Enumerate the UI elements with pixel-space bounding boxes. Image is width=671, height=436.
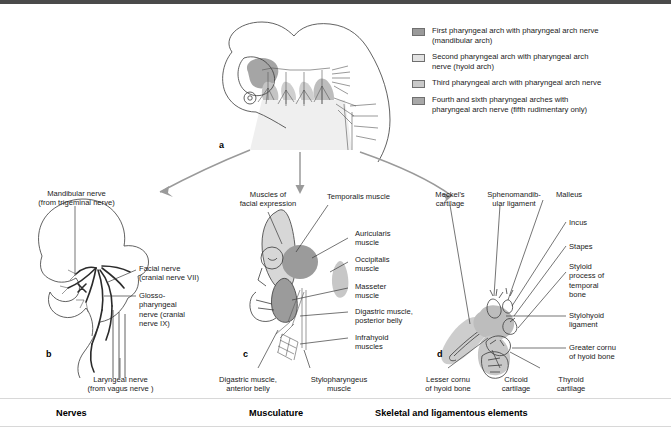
infrahyoid-muscles-label: Infrahyoid muscles xyxy=(355,333,415,352)
auricularis-muscle-label: Auricularis muscle xyxy=(355,229,415,248)
legend: First pharyngeal arch with pharyngeal ar… xyxy=(412,26,668,122)
figure-root: First pharyngeal arch with pharyngeal ar… xyxy=(0,0,671,436)
styloid-process-label: Styloid process of temporal bone xyxy=(569,262,621,300)
panel-a-embryo xyxy=(223,22,390,162)
category-title-nerves: Nerves xyxy=(56,408,87,418)
muscles-facial-expression-label: Muscles of facial expression xyxy=(225,190,311,209)
temporalis-muscle-label: Temporalis muscle xyxy=(327,192,417,201)
digastric-anterior-belly-label: Digastric muscle, anterior belly xyxy=(204,375,292,394)
stylopharyngeus-muscle-label: Stylopharyngeus muscle xyxy=(297,375,381,394)
meckels-cartilage-label: Meckel's cartilage xyxy=(424,190,476,209)
panel-c-musculature xyxy=(250,205,348,368)
category-title-skeletal: Skeletal and ligamentous elements xyxy=(375,408,528,418)
occipitalis-muscle-label: Occipitalis muscle xyxy=(355,255,415,274)
category-divider-rule xyxy=(0,398,671,399)
thyroid-cartilage-label: Thyroid cartilage xyxy=(545,375,597,394)
digastric-posterior-belly-label: Digastric muscle, posterior belly xyxy=(355,307,440,326)
cricoid-cartilage-label: Cricoid cartilage xyxy=(490,375,542,394)
bottom-rule xyxy=(0,426,671,427)
legend-item-label: First pharyngeal arch with pharyngeal ar… xyxy=(432,26,599,45)
panel-letter-c: c xyxy=(243,349,248,359)
legend-item-label: Third pharyngeal arch with pharyngeal ar… xyxy=(432,78,601,88)
panel-b-nerves xyxy=(39,199,149,378)
mandibular-nerve-label: Mandibular nerve (from trigeminal nerve) xyxy=(14,189,139,208)
category-title-musculature: Musculature xyxy=(249,408,303,418)
glossopharyngeal-nerve-label: Glosso- pharyngeal nerve (cranial nerve … xyxy=(139,291,197,329)
panel-d-skeletal xyxy=(441,200,566,378)
legend-item-fourth-sixth-arch: Fourth and sixth pharyngeal arches with … xyxy=(412,95,668,114)
legend-item-label: Second pharyngeal arch with pharyngeal a… xyxy=(432,52,588,71)
stylohyoid-ligament-label: Stylohyoid ligament xyxy=(569,311,629,330)
top-rule xyxy=(0,0,671,4)
panel-letter-b: b xyxy=(46,349,52,359)
third-arch-swatch xyxy=(412,80,425,88)
laryngeal-nerve-label: Laryngeal nerve (from vagus nerve ) xyxy=(58,375,183,394)
stapes-label: Stapes xyxy=(569,242,629,251)
fourth-sixth-arch-swatch xyxy=(412,97,425,105)
panel-letter-d: d xyxy=(437,349,443,359)
lesser-cornu-hyoid-label: Lesser cornu of hyoid bone xyxy=(408,375,488,394)
legend-item-label: Fourth and sixth pharyngeal arches with … xyxy=(432,95,587,114)
incus-label: Incus xyxy=(569,218,629,227)
malleus-label: Malleus xyxy=(556,190,616,199)
second-arch-swatch xyxy=(412,54,425,62)
sphenomandibular-ligament-label: Sphenomandib- ular ligament xyxy=(478,190,550,209)
legend-item-first-arch: First pharyngeal arch with pharyngeal ar… xyxy=(412,26,668,45)
panel-letter-a: a xyxy=(219,140,224,150)
facial-nerve-label: Facial nerve (cranial nerve VII) xyxy=(139,264,229,283)
first-arch-swatch xyxy=(412,28,425,36)
greater-cornu-hyoid-label: Greater cornu of hyoid bone xyxy=(569,343,647,362)
masseter-muscle-label: Masseter muscle xyxy=(355,282,415,301)
legend-item-third-arch: Third pharyngeal arch with pharyngeal ar… xyxy=(412,78,668,88)
legend-item-second-arch: Second pharyngeal arch with pharyngeal a… xyxy=(412,52,668,71)
